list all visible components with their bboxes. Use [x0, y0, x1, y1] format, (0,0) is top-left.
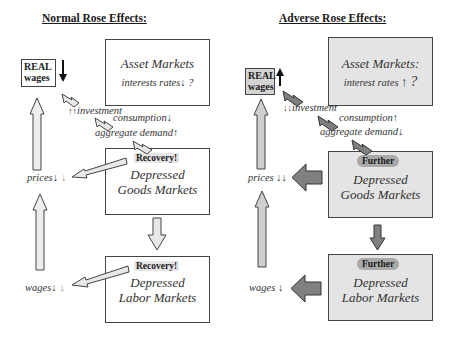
right-prices-to-real-wages-arrow	[254, 99, 268, 169]
left-goods-to-labor-arrow	[148, 218, 166, 250]
right-aggregate-demand-to-goods-arrow	[352, 140, 372, 155]
real-wages-down-arrow-icon	[59, 60, 67, 82]
arrows-layer	[0, 0, 449, 338]
right-labor-to-wages-arrow	[291, 275, 321, 302]
real-wages-up-arrow-icon	[276, 68, 284, 86]
right-goods-to-labor-arrow	[370, 225, 385, 250]
left-goods-to-prices-arrow	[72, 158, 127, 178]
right-goods-to-prices-arrow	[292, 164, 322, 191]
left-wages-to-prices-arrow	[33, 194, 47, 270]
right-investment-to-consumption-arrow	[318, 116, 338, 131]
left-investment-to-consumption-arrow	[95, 118, 113, 131]
right-real-wages-to-investment-arrow	[283, 91, 303, 106]
left-prices-to-real-wages-arrow	[30, 98, 44, 170]
left-real-wages-to-investment-arrow	[62, 94, 79, 107]
left-labor-to-wages-arrow	[72, 266, 129, 287]
right-wages-to-prices-arrow	[255, 191, 269, 267]
left-aggregate-demand-to-goods-arrow	[133, 141, 152, 154]
